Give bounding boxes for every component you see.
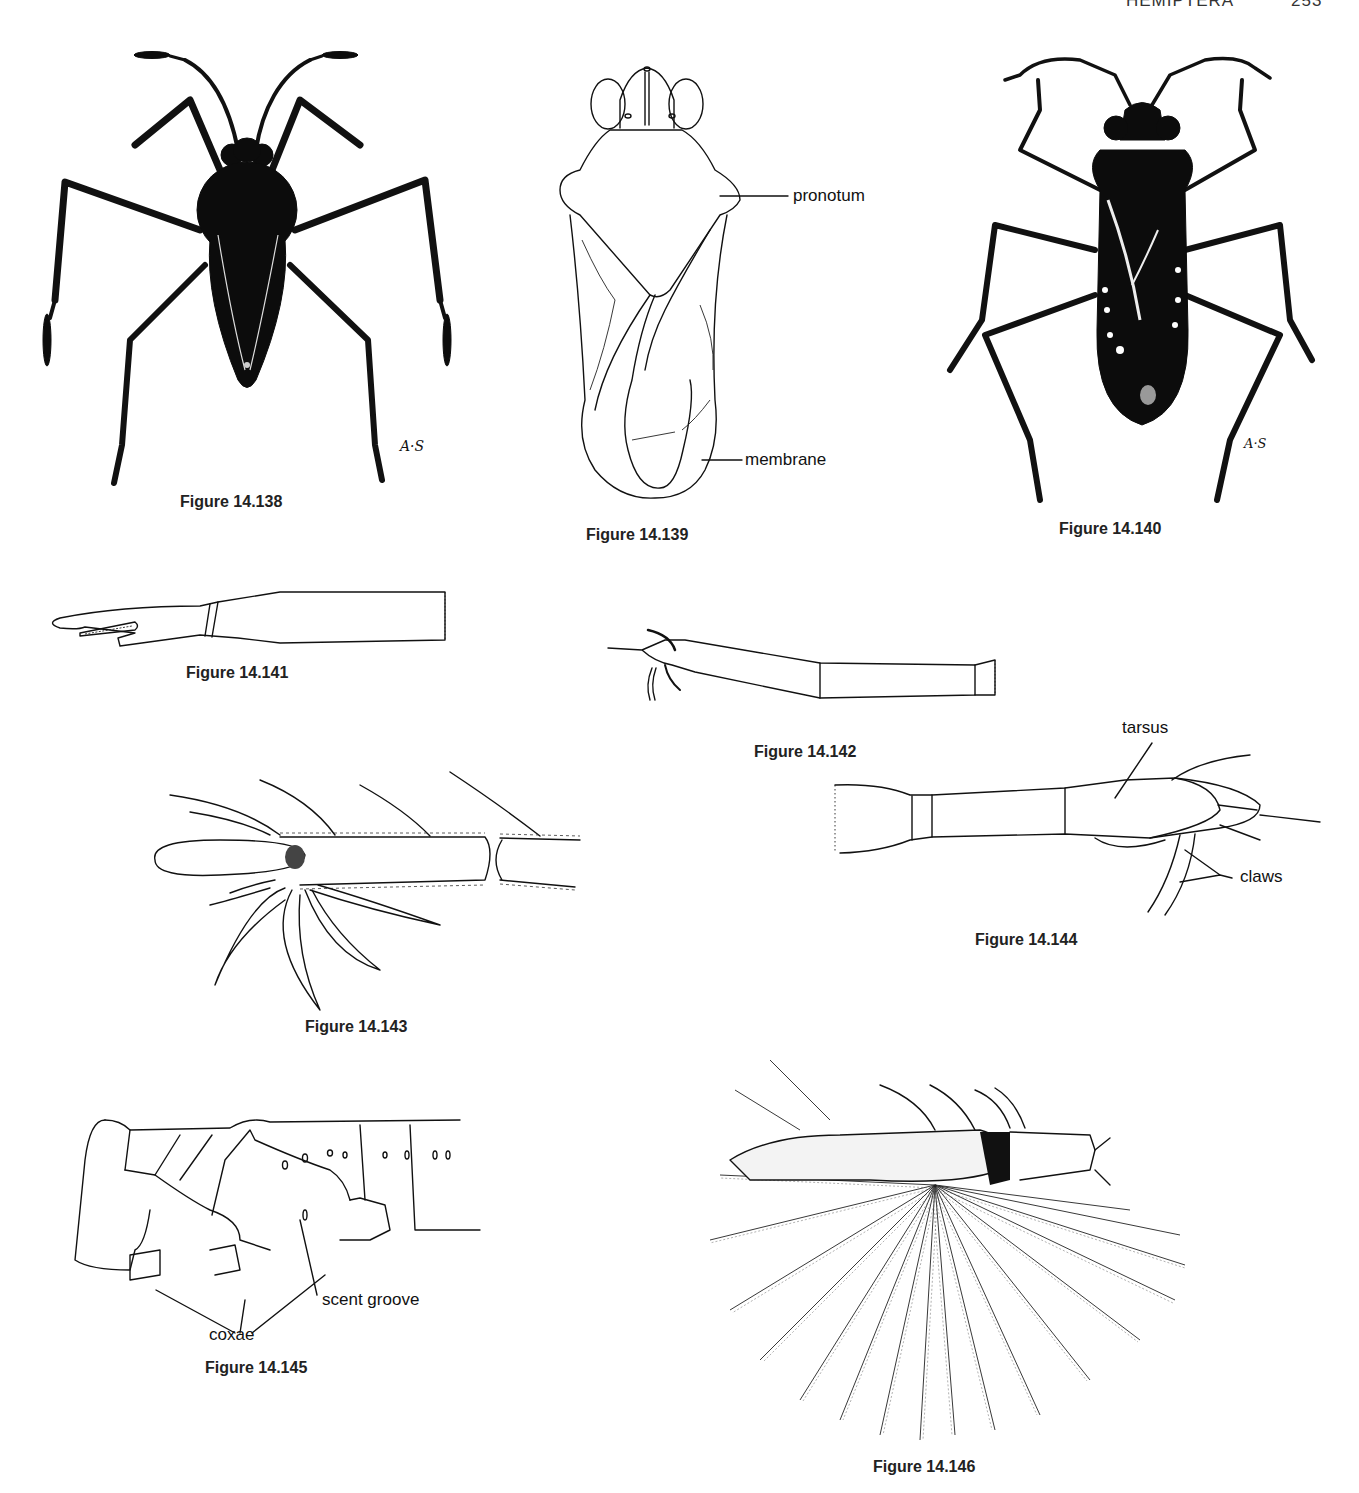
figure-14-145: scent groove coxae Figure 14.145 — [60, 1120, 480, 1380]
feather-rays — [710, 1060, 1185, 1440]
label-pronotum: pronotum — [793, 186, 865, 206]
artist-signature: A·S — [1244, 436, 1266, 451]
figure-caption: Figure 14.146 — [873, 1458, 975, 1476]
figure-caption: Figure 14.140 — [1059, 520, 1161, 538]
artist-signature: A·S — [400, 438, 424, 454]
bug-outline-diagram — [520, 0, 900, 520]
figure-14-141: Figure 14.141 — [40, 580, 460, 690]
label-coxae: coxae — [209, 1325, 254, 1345]
tarsus-claws-diagram — [820, 710, 1340, 930]
bug-illustration-dark — [0, 0, 480, 500]
label-claws: claws — [1240, 867, 1283, 887]
label-tarsus: tarsus — [1122, 718, 1168, 738]
figure-14-140: A·S Figure 14.140 — [920, 0, 1350, 550]
figure-caption: Figure 14.138 — [180, 493, 282, 511]
figure-caption: Figure 14.144 — [975, 931, 1077, 949]
tarsus-leaf-fan — [140, 760, 600, 1020]
tarsus-feathery-fan — [690, 1020, 1250, 1460]
figure-14-138: A·S Figure 14.138 — [0, 0, 480, 520]
figure-caption: Figure 14.141 — [186, 664, 288, 682]
figure-14-144: tarsus claws Figure 14.144 — [820, 710, 1340, 960]
bug-illustration-spotted — [920, 0, 1350, 520]
label-membrane: membrane — [745, 450, 826, 470]
figure-14-143: Figure 14.143 — [140, 760, 610, 1050]
figure-caption: Figure 14.145 — [205, 1359, 307, 1377]
figure-14-139: pronotum membrane Figure 14.139 — [520, 0, 900, 550]
figure-caption: Figure 14.143 — [305, 1018, 407, 1036]
leg-segment-cleft-tip — [40, 580, 460, 660]
figure-caption: Figure 14.139 — [586, 526, 688, 544]
label-scent-groove: scent groove — [322, 1290, 419, 1310]
figure-14-146: Figure 14.146 — [690, 1020, 1250, 1480]
